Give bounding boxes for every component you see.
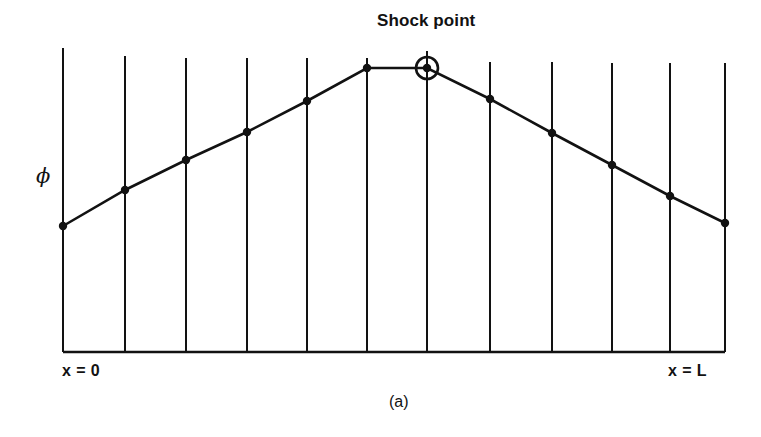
grid-node-marker [423, 64, 431, 72]
figure-container: Shock point ϕ x = 0 x = L (a) [0, 0, 761, 437]
shock-point-diagram [0, 0, 761, 437]
grid-node-marker [121, 186, 129, 194]
subfigure-caption: (a) [389, 394, 409, 410]
grid-node-marker [303, 97, 311, 105]
grid-node-marker [243, 128, 251, 136]
shock-point-annotation-label: Shock point [377, 12, 475, 29]
x-end-label: x = L [668, 363, 707, 379]
y-axis-label-phi: ϕ [36, 166, 50, 187]
grid-node-marker [486, 95, 494, 103]
grid-node-marker [59, 222, 67, 230]
grid-node-marker [721, 219, 729, 227]
grid-node-marker [548, 129, 556, 137]
grid-node-marker [182, 156, 190, 164]
x-start-label: x = 0 [62, 363, 100, 379]
node-markers-group [59, 64, 729, 230]
phi-solution-polyline [63, 68, 725, 226]
grid-lines-group [63, 48, 725, 352]
grid-node-marker [608, 161, 616, 169]
grid-node-marker [363, 64, 371, 72]
grid-node-marker [666, 192, 674, 200]
